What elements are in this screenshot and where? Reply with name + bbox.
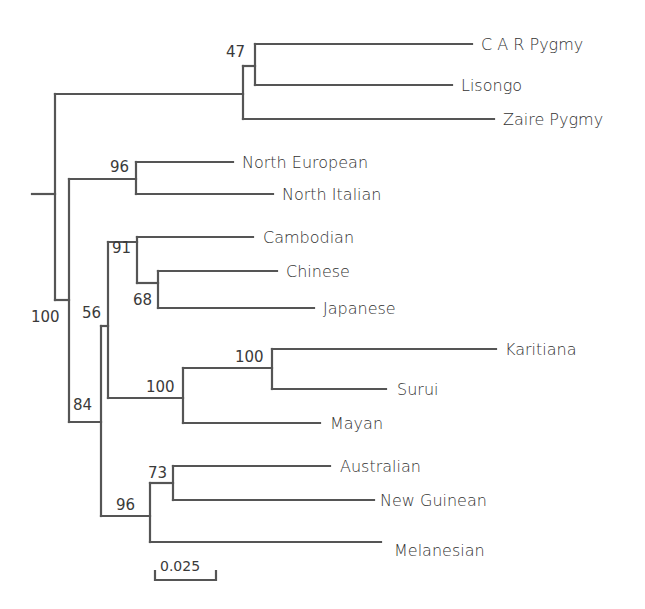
support-96-european: 96: [110, 158, 129, 176]
support-47: 47: [226, 43, 245, 61]
support-96-oceania: 96: [116, 496, 135, 514]
leaf-karitiana: Karitiana: [505, 340, 577, 359]
leaf-mayan: Mayan: [330, 414, 383, 433]
support-100-non-african: 100: [31, 308, 60, 326]
phylogenetic-tree: C A R Pygmy Lisongo Zaire Pygmy North Eu…: [0, 0, 645, 609]
leaf-car-pygmy: C A R Pygmy: [481, 35, 583, 54]
leaf-zaire-pygmy: Zaire Pygmy: [503, 110, 603, 129]
support-73: 73: [148, 464, 167, 482]
support-100-amerind: 100: [146, 378, 175, 396]
support-56: 56: [82, 304, 101, 322]
leaf-chinese: Chinese: [286, 262, 350, 281]
leaf-cambodian: Cambodian: [263, 228, 354, 247]
support-91: 91: [112, 239, 131, 257]
scale-bar-label: 0.025: [160, 558, 200, 574]
leaf-melanesian: Melanesian: [394, 541, 485, 560]
support-84: 84: [73, 396, 92, 414]
leaf-japanese: Japanese: [323, 299, 396, 318]
leaf-north-italian: North Italian: [282, 185, 381, 204]
leaf-new-guinean: New Guinean: [380, 491, 487, 510]
leaf-surui: Surui: [397, 380, 438, 399]
leaf-australian: Australian: [340, 457, 421, 476]
leaf-lisongo: Lisongo: [461, 76, 522, 95]
support-100-karitiana-surui: 100: [235, 348, 264, 366]
support-68: 68: [133, 291, 152, 309]
leaf-north-european: North European: [242, 153, 368, 172]
